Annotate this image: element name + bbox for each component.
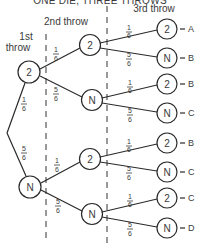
node-level2-a: 2 [80, 35, 101, 56]
svg-text:N: N [163, 167, 170, 178]
svg-text:6: 6 [22, 105, 26, 112]
fraction-l2-b: 5 6 [53, 86, 59, 102]
svg-text:N: N [88, 209, 95, 220]
svg-text:6: 6 [127, 32, 131, 39]
node-level1-2: 2 [18, 61, 40, 83]
svg-text:6: 6 [127, 174, 131, 181]
svg-text:6: 6 [56, 207, 60, 214]
node-level2-b: N [82, 90, 103, 111]
svg-text:6: 6 [128, 201, 132, 208]
svg-text:N: N [26, 182, 33, 193]
outcome-label: C [188, 167, 195, 177]
fraction-l3-8: 5 6 [127, 221, 133, 237]
fraction-l3-3: 1 6 [127, 79, 133, 94]
svg-text:5: 5 [22, 145, 26, 152]
fraction-l3-1: 1 6 [126, 24, 132, 39]
svg-text:N: N [88, 95, 95, 106]
outcome-label: B [188, 138, 194, 148]
header-3rd-throw: 3rd throw [133, 3, 175, 14]
fraction-l3-7: 1 6 [127, 193, 133, 208]
svg-text:N: N [163, 108, 170, 119]
fraction-root-to-n: 5 6 [21, 145, 27, 161]
svg-text:1: 1 [127, 138, 131, 145]
node-level1-n: N [19, 176, 41, 198]
svg-text:2: 2 [164, 138, 170, 149]
svg-text:5: 5 [128, 107, 132, 114]
fraction-l3-4: 5 6 [127, 107, 133, 123]
svg-text:1: 1 [22, 96, 26, 103]
node-level3-3: 2 B [157, 74, 194, 94]
svg-text:2: 2 [164, 79, 170, 90]
svg-text:6: 6 [128, 87, 132, 94]
node-level3-2: N B [157, 48, 194, 68]
svg-text:6: 6 [54, 55, 58, 62]
node-level3-8: N D [157, 218, 195, 238]
svg-text:5: 5 [54, 86, 58, 93]
node-level3-5: 2 B [157, 133, 194, 153]
svg-text:5: 5 [127, 51, 131, 58]
svg-text:6: 6 [22, 154, 26, 161]
outcome-label: D [188, 223, 195, 233]
node-level3-7: 2 C [157, 188, 195, 208]
svg-text:1: 1 [55, 157, 59, 164]
header-2nd-throw: 2nd throw [44, 16, 89, 27]
probability-tree-diagram: ONE DIE, THREE THROWS 1st throw 2nd thro… [0, 0, 201, 250]
svg-text:2: 2 [164, 193, 170, 204]
svg-text:6: 6 [127, 60, 131, 67]
svg-text:6: 6 [55, 166, 59, 173]
svg-text:2: 2 [164, 24, 170, 35]
header-1st-throw-line1: 1st [19, 31, 33, 42]
svg-text:5: 5 [56, 198, 60, 205]
node-level2-d: N [82, 204, 103, 225]
node-level3-6: N C [157, 162, 195, 182]
outcome-label: C [188, 108, 195, 118]
svg-text:6: 6 [128, 116, 132, 123]
fraction-root-to-2: 1 6 [21, 96, 27, 112]
svg-text:1: 1 [127, 24, 131, 31]
svg-text:1: 1 [128, 193, 132, 200]
svg-text:1: 1 [128, 79, 132, 86]
node-level3-4: N C [157, 103, 195, 123]
svg-text:6: 6 [54, 95, 58, 102]
fraction-l3-5: 1 6 [126, 138, 132, 153]
svg-text:N: N [163, 53, 170, 64]
header-1st-throw-line2: throw [6, 42, 31, 53]
svg-text:6: 6 [127, 146, 131, 153]
outcome-label: A [188, 24, 194, 34]
fraction-l2-c: 1 6 [54, 157, 60, 173]
svg-text:5: 5 [127, 165, 131, 172]
svg-text:5: 5 [128, 221, 132, 228]
outcome-label: B [188, 79, 194, 89]
svg-text:2: 2 [87, 40, 93, 51]
svg-text:1: 1 [54, 46, 58, 53]
node-level2-c: 2 [80, 149, 101, 170]
svg-text:2: 2 [87, 154, 93, 165]
svg-text:6: 6 [128, 230, 132, 237]
outcome-label: C [188, 193, 195, 203]
outcome-label: B [188, 53, 194, 63]
svg-text:2: 2 [26, 67, 32, 78]
node-level3-1: 2 A [157, 19, 194, 39]
svg-text:N: N [163, 223, 170, 234]
